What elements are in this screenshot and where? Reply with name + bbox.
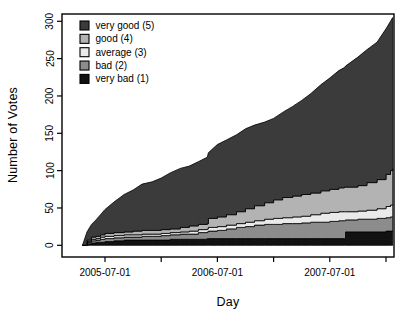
y-tick-label: 150 — [44, 125, 55, 142]
y-tick-label: 300 — [44, 13, 55, 30]
legend-label-very-good-5: very good (5) — [96, 20, 155, 31]
legend-swatch-bad-2 — [80, 61, 89, 70]
y-tick-label: 100 — [45, 162, 56, 179]
chart-svg: 0501001502002503002005-07-012006-07-0120… — [0, 0, 404, 321]
legend-label-average-3: average (3) — [96, 47, 147, 58]
y-axis-title: Number of Votes — [6, 87, 20, 183]
vote-history-chart-figure: 0501001502002503002005-07-012006-07-0120… — [0, 0, 404, 321]
y-tick-label: 250 — [45, 50, 56, 67]
y-tick-label: 200 — [44, 87, 55, 104]
legend-group: very good (5)good (4)average (3)bad (2)v… — [80, 20, 154, 84]
legend-swatch-average-3 — [80, 48, 89, 57]
y-tick-label: 0 — [45, 242, 56, 248]
x-tick-label: 2005-07-01 — [79, 267, 131, 278]
x-tick-label: 2007-07-01 — [304, 267, 356, 278]
legend-swatch-very-bad-1 — [80, 74, 89, 83]
x-axis-title: Day — [217, 295, 240, 309]
legend-label-very-bad-1: very bad (1) — [96, 73, 149, 84]
legend-swatch-very-good-5 — [80, 21, 89, 30]
legend-label-good-4: good (4) — [96, 33, 133, 44]
legend-swatch-good-4 — [80, 34, 89, 43]
x-tick-label: 2006-07-01 — [192, 267, 244, 278]
y-tick-label: 50 — [44, 202, 55, 214]
legend-label-bad-2: bad (2) — [96, 60, 128, 71]
